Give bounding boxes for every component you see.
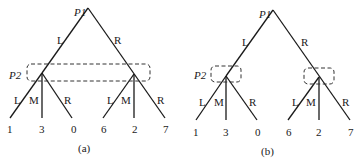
payoff: 1 [193,126,199,138]
player-label-p1: P1 [73,6,86,18]
edge-label: R [249,96,257,108]
panel-a: P1 P2 L R L M R L M R 1 3 0 6 2 7 (a) [7,6,169,155]
edge-label: R [342,96,350,108]
edge-label: L [242,36,249,48]
caption-b: (b) [261,145,274,158]
edge-label: R [64,94,72,106]
edge-label: R [301,36,309,48]
edge-label: L [292,96,299,108]
payoff: 7 [348,126,354,138]
edge-label: M [121,94,131,106]
payoff: 3 [39,123,45,135]
payoff: 3 [223,126,229,138]
payoff: 2 [132,123,138,135]
payoff: 6 [286,126,292,138]
payoff: 0 [255,126,261,138]
player-label-p2: P2 [193,69,207,81]
caption-a: (a) [78,142,91,155]
edge-label: M [29,94,39,106]
edge-label: L [107,94,114,106]
payoff: 0 [71,123,77,135]
game-trees-figure: P1 P2 L R L M R L M R 1 3 0 6 2 7 (a) P1 [0,0,364,168]
player-label-p1: P1 [258,8,271,20]
payoff: 7 [163,123,169,135]
edge-label: L [57,34,64,46]
edge-label: M [306,96,316,108]
edge-label: L [14,94,21,106]
edge-label: R [114,34,122,46]
edge-label: M [214,96,224,108]
panel-b: P1 P2 L R L M R L M R 1 3 0 6 2 7 (b) [193,8,354,158]
player-label-p2: P2 [8,69,22,81]
edge-label: R [157,94,165,106]
edge-label: L [199,96,206,108]
payoff: 6 [101,123,107,135]
payoff: 2 [316,126,322,138]
payoff: 1 [7,123,13,135]
